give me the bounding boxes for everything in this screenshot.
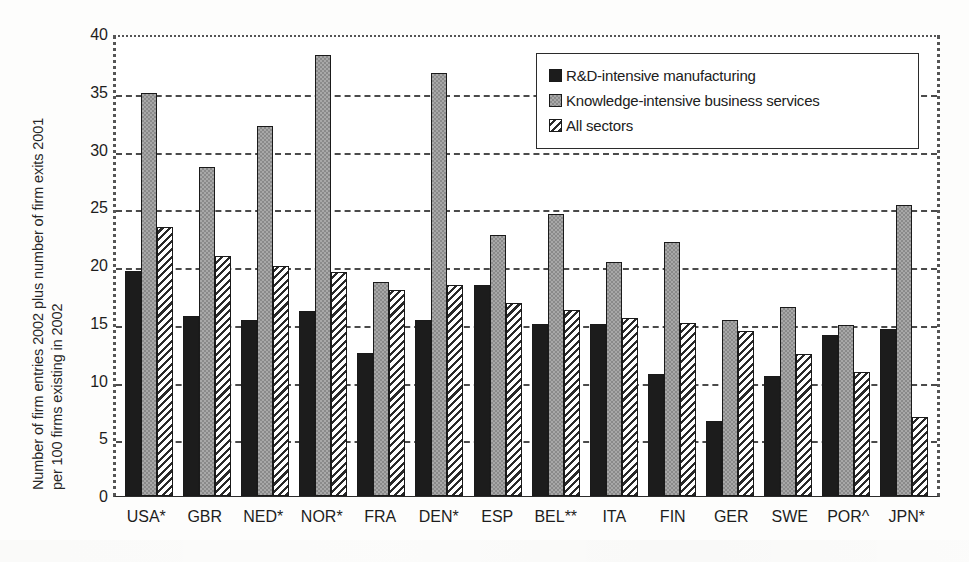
- bar: [854, 372, 870, 496]
- y-tick-label: 15: [62, 315, 108, 333]
- bar: [257, 126, 273, 496]
- legend-item: R&D-intensive manufacturing: [549, 63, 908, 88]
- chart-legend: R&D-intensive manufacturingKnowledge-int…: [536, 53, 919, 149]
- x-tick-label: USA*: [117, 500, 176, 540]
- bar: [357, 353, 373, 496]
- x-tick-label: ITA: [585, 500, 644, 540]
- bar-group: [410, 37, 468, 496]
- y-tick-label: 30: [62, 142, 108, 160]
- x-tick-label: ESP: [468, 500, 527, 540]
- y-tick-label: 25: [62, 199, 108, 217]
- bar-group: [294, 37, 352, 496]
- legend-item-label: Knowledge-intensive business services: [566, 92, 820, 109]
- x-tick-label: DEN*: [410, 500, 469, 540]
- bar: [373, 282, 389, 496]
- bar: [141, 93, 157, 496]
- y-tick-label: 10: [62, 373, 108, 391]
- bar: [532, 324, 548, 496]
- x-tick-label: FRA: [351, 500, 410, 540]
- legend-item: All sectors: [549, 113, 908, 138]
- x-tick-label: BEL**: [527, 500, 586, 540]
- legend-swatch-icon: [549, 69, 562, 82]
- bar: [564, 310, 580, 496]
- bar: [431, 73, 447, 496]
- bar-group: [236, 37, 294, 496]
- x-tick-label: JPN*: [878, 500, 937, 540]
- legend-swatch-icon: [549, 119, 562, 132]
- legend-item-label: R&D-intensive manufacturing: [566, 67, 756, 84]
- bar: [838, 325, 854, 496]
- y-tick-label: 35: [62, 84, 108, 102]
- bar: [822, 335, 838, 496]
- bar: [474, 285, 490, 496]
- legend-item: Knowledge-intensive business services: [549, 88, 908, 113]
- bar: [706, 421, 722, 496]
- y-axis-title: Number of firm entries 2002 plus number …: [8, 20, 58, 500]
- bar: [273, 266, 289, 496]
- bar: [241, 320, 257, 496]
- bar: [680, 323, 696, 496]
- x-tick-label: NED*: [234, 500, 293, 540]
- bar: [722, 320, 738, 496]
- bar: [415, 320, 431, 496]
- bar: [331, 272, 347, 496]
- bar: [506, 303, 522, 496]
- bar: [299, 311, 315, 496]
- bar: [648, 374, 664, 496]
- legend-swatch-icon: [549, 94, 562, 107]
- bar: [606, 262, 622, 496]
- y-tick-label: 5: [62, 430, 108, 448]
- bar-group: [468, 37, 526, 496]
- bar: [215, 256, 231, 496]
- x-axis-tick-labels: USA*GBRNED*NOR*FRADEN*ESPBEL**ITAFINGERS…: [113, 500, 940, 540]
- bar: [912, 417, 928, 496]
- bar: [490, 235, 506, 496]
- x-tick-label: GBR: [176, 500, 235, 540]
- y-tick-label: 0: [62, 488, 108, 506]
- bar: [389, 290, 405, 496]
- bar: [796, 354, 812, 496]
- y-tick-label: 20: [62, 257, 108, 275]
- bar: [157, 227, 173, 496]
- y-axis-title-line-1: Number of firm entries 2002 plus number …: [30, 118, 46, 490]
- bar-group: [178, 37, 236, 496]
- bar: [125, 271, 141, 496]
- bar: [880, 329, 896, 496]
- x-tick-label: NOR*: [293, 500, 352, 540]
- bar: [548, 214, 564, 496]
- legend-item-label: All sectors: [566, 117, 633, 134]
- y-axis-tick-labels: 4035302520151050: [58, 0, 108, 562]
- bar: [780, 307, 796, 496]
- bar: [622, 318, 638, 496]
- bar: [315, 55, 331, 496]
- x-tick-label: SWE: [761, 500, 820, 540]
- bar-group: [352, 37, 410, 496]
- bar: [447, 285, 463, 496]
- bar-group: [120, 37, 178, 496]
- bar: [738, 331, 754, 496]
- bar: [590, 324, 606, 496]
- bar: [664, 242, 680, 496]
- bar-chart-figure: Number of firm entries 2002 plus number …: [0, 0, 969, 562]
- bar: [764, 376, 780, 496]
- x-tick-label: GER: [702, 500, 761, 540]
- bar: [183, 316, 199, 496]
- bar: [199, 167, 215, 496]
- x-tick-label: POR^: [819, 500, 878, 540]
- bar: [896, 205, 912, 496]
- x-tick-label: FIN: [644, 500, 703, 540]
- scan-artifact: [0, 540, 969, 562]
- y-tick-label: 40: [62, 26, 108, 44]
